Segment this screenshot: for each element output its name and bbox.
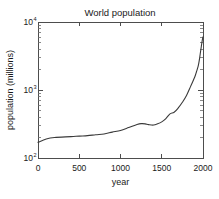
y-tick-labels: 10 4 10 3 10 2 (24, 16, 37, 164)
y-tick-label-10000-mantissa: 10 (24, 17, 34, 27)
figure-canvas: World population (0, 0, 219, 199)
x-tick-label-1000: 1000 (111, 163, 130, 173)
x-tick-label-500: 500 (72, 163, 86, 173)
world-population-chart: World population (0, 0, 219, 199)
x-tick-label-1500: 1500 (152, 163, 171, 173)
y-tick-label-1000-exponent: 3 (34, 84, 37, 90)
x-tick-label-2000: 2000 (194, 163, 213, 173)
x-axis-title: year (112, 177, 130, 187)
x-tick-label-0: 0 (36, 163, 41, 173)
plot-area-background (38, 22, 203, 158)
x-tick-labels: 0 500 1000 1500 2000 (36, 163, 213, 173)
y-axis-title: population (millions) (5, 50, 15, 130)
y-tick-label-1000-mantissa: 10 (24, 85, 34, 95)
y-tick-label-100-exponent: 2 (34, 152, 37, 158)
chart-title: World population (84, 7, 155, 18)
y-tick-label-100-mantissa: 10 (24, 153, 34, 163)
y-tick-label-10000-exponent: 4 (34, 16, 37, 22)
